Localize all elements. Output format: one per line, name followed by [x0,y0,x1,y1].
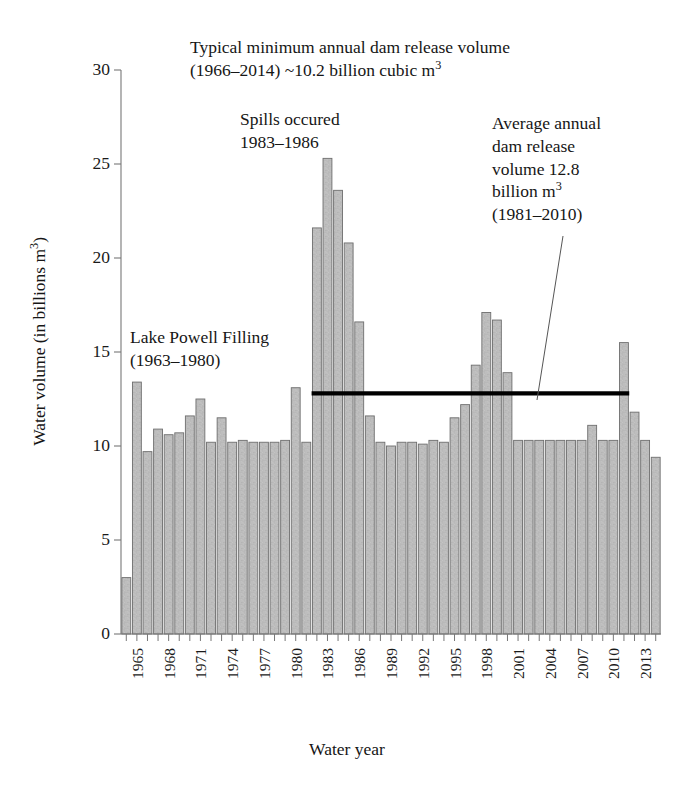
bar-series [122,158,660,634]
x-axis-tick-label: 1983 [319,648,337,679]
bar [185,416,194,634]
bar [503,373,512,634]
bar [376,442,385,634]
bar [154,429,163,634]
annotation-powell-line1: Lake Powell Filling [130,326,269,349]
x-axis-tick-label: 1977 [256,648,274,679]
bar [259,442,268,634]
x-axis-tick-label: 2013 [637,648,655,679]
annotation-leader-line [537,236,563,400]
annotation-spills-line2: 1983–1986 [240,131,340,154]
bar [429,440,438,634]
x-axis-tick-labels: 1965196819711974197719801983198619891992… [0,648,694,738]
x-axis-tick-label: 1998 [478,648,496,679]
x-axis-tick-label: 1971 [192,648,210,679]
bar [217,418,226,634]
x-axis-tick-label: 1995 [447,648,465,679]
bar [535,440,544,634]
y-axis-tick-label: 15 [76,341,110,362]
bar [291,388,300,634]
y-axis-tick-label: 30 [76,59,110,80]
bar [514,440,523,634]
annotation-typical-line2-text: (1966–2014) ~10.2 billion cubic m [190,60,435,80]
annotation-spills-occured: Spills occured 1983–1986 [240,108,340,154]
bar [461,405,470,634]
bar [630,412,639,634]
y-axis-tick-label: 10 [76,435,110,456]
x-axis-tick-label: 2010 [605,648,623,679]
bar [619,343,628,634]
bar [397,442,406,634]
bar [249,442,258,634]
annotation-average-line2: dam release [492,135,601,158]
bar [408,442,417,634]
bar [387,446,396,634]
bar [312,228,321,634]
annotation-lake-powell-filling: Lake Powell Filling (1963–1980) [130,326,269,372]
bar [450,418,459,634]
annotation-average-line4: billion m3 [492,180,601,203]
annotation-typical-line2: (1966–2014) ~10.2 billion cubic m3 [190,59,510,82]
annotation-powell-line2: (1963–1980) [130,349,269,372]
x-axis-tick-label: 1974 [224,648,242,679]
bar [207,442,216,634]
bar [164,435,173,634]
bar [270,442,279,634]
x-axis-tick-label: 2004 [542,648,560,679]
x-axis-tick-label: 2001 [510,648,528,679]
y-axis-tick-label: 20 [76,247,110,268]
y-axis-title-suffix: ) [29,237,49,243]
x-axis-tick-label: 2007 [574,648,592,679]
bar [175,433,184,634]
bar [365,416,374,634]
leader-line [537,236,563,400]
bar [143,452,152,634]
bar [567,440,576,634]
bar [641,440,650,634]
x-axis-tick-label: 1986 [351,648,369,679]
x-axis-title: Water year [0,738,694,761]
annotation-typical-line2-sup: 3 [435,58,441,72]
bar [418,444,427,634]
annotation-spills-line1: Spills occured [240,108,340,131]
y-axis-title-sup: 3 [27,243,41,249]
annotation-average-line3: volume 12.8 [492,158,601,181]
bar [228,442,237,634]
y-axis-title-text: Water volume (in billions m [29,249,49,446]
annotation-typical-line1: Typical minimum annual dam release volum… [190,36,510,59]
bar [281,440,290,634]
bar [323,158,332,634]
y-axis-tick-label: 5 [76,529,110,550]
y-axis-tick-label: 25 [76,153,110,174]
y-axis-title: Water volume (in billions m3) [28,226,51,456]
bar [588,425,597,634]
annotation-typical-minimum: Typical minimum annual dam release volum… [190,36,510,82]
x-axis-tick-label: 1992 [415,648,433,679]
bar [545,440,554,634]
bar [439,442,448,634]
annotation-average-line4-sup: 3 [556,179,562,193]
bar [334,190,343,634]
bar [598,440,607,634]
annotation-average-line5: (1981–2010) [492,203,601,226]
bar [238,440,247,634]
bar [482,313,491,634]
bar [577,440,586,634]
bar [302,442,311,634]
bar [132,382,141,634]
chart-figure: 051015202530 196519681971197419771980198… [0,0,694,785]
y-axis-tick-label: 0 [76,623,110,644]
bar [471,365,480,634]
bar [344,243,353,634]
bar [609,440,618,634]
bar [492,320,501,634]
bar [524,440,533,634]
x-axis-tick-label: 1989 [383,648,401,679]
x-axis-tick-label: 1965 [129,648,147,679]
bar [196,399,205,634]
x-axis-tick-label: 1980 [288,648,306,679]
bar [556,440,565,634]
annotation-average-line1: Average annual [492,112,601,135]
annotation-average-annual: Average annual dam release volume 12.8 b… [492,112,601,226]
annotation-average-line4-text: billion m [492,181,556,201]
